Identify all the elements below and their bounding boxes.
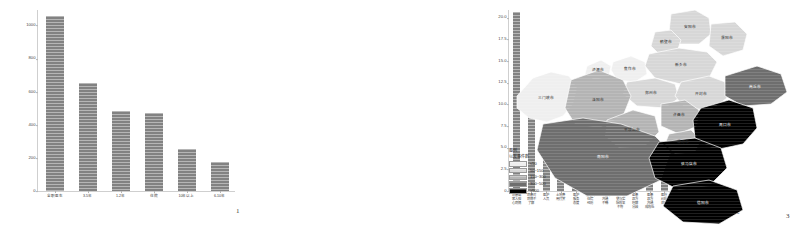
chart-1-plot-area: 02004006008001000全职医生3-5年1-2年住院10年以上6-10… bbox=[37, 10, 235, 192]
y-axis-tick-label: 1000 bbox=[26, 23, 38, 27]
figure-root: 02004006008001000全职医生3-5年1-2年住院10年以上6-10… bbox=[0, 0, 810, 233]
x-axis-tick bbox=[154, 191, 155, 193]
panel-chart-2: 02.55.07.510.012.515.017.520.0病患或 家人担 心病… bbox=[250, 0, 503, 233]
legend-swatch bbox=[509, 168, 527, 174]
panel-3-number: 3 bbox=[786, 212, 790, 220]
map-region-label: 开封市 bbox=[695, 91, 707, 96]
legend-item-label: >500 bbox=[530, 189, 539, 193]
map-region-label: 鹤壁市 bbox=[660, 39, 672, 44]
map-region-label: 商丘市 bbox=[749, 84, 761, 89]
legend-item: 150~300 bbox=[509, 175, 546, 181]
x-axis-tick-label: 1-2年 bbox=[106, 194, 136, 198]
legend-item: 300~500 bbox=[509, 181, 546, 187]
y-axis-tick-label: 600 bbox=[29, 90, 39, 94]
map-region-label: 漯河市 bbox=[677, 139, 689, 144]
y-axis-tick-label: 400 bbox=[29, 123, 39, 127]
bar bbox=[211, 162, 229, 191]
legend-swatch bbox=[509, 175, 527, 181]
map-region-label: 信阳市 bbox=[697, 200, 709, 205]
legend-item: <50 bbox=[509, 161, 546, 167]
y-axis-tick-label: 0 bbox=[33, 189, 38, 193]
legend-item: 50~150 bbox=[509, 168, 546, 174]
map-region-label: 焦作市 bbox=[624, 66, 636, 71]
x-axis-tick-label: 住院 bbox=[139, 194, 169, 198]
x-axis-tick-label: 6-10年 bbox=[205, 194, 235, 198]
legend-item-label: 50~150 bbox=[530, 169, 543, 173]
map-region-label: 南阳市 bbox=[597, 154, 609, 159]
bar bbox=[145, 113, 163, 191]
y-axis-tick-label: 800 bbox=[29, 57, 39, 61]
bar bbox=[112, 111, 130, 191]
legend-swatch bbox=[509, 188, 527, 194]
legend-title-sub: 以发事件数 bbox=[509, 154, 546, 159]
legend-swatch bbox=[509, 181, 527, 187]
map-region-label: 驻马店市 bbox=[681, 161, 697, 166]
legend-item: >500 bbox=[509, 188, 546, 194]
x-axis-tick bbox=[121, 191, 122, 193]
henan-province-map: 三门峡市济源市焦作市安阳市鹤壁市濮阳市新乡市郑州市开封市洛阳市平顶山市许昌市漯河… bbox=[503, 0, 810, 233]
x-axis-tick-label: 10年以上 bbox=[172, 194, 202, 198]
legend-item-label: 150~300 bbox=[530, 175, 546, 179]
map-region-label: 济源市 bbox=[592, 67, 604, 72]
legend-title-main: 图例 bbox=[509, 148, 546, 153]
bar bbox=[178, 149, 196, 191]
x-axis-tick bbox=[88, 191, 89, 193]
x-axis-tick bbox=[220, 191, 221, 193]
map-region-label: 安阳市 bbox=[684, 24, 696, 29]
panel-chart-1: 02004006008001000全职医生3-5年1-2年住院10年以上6-10… bbox=[0, 0, 250, 233]
legend-item-label: 300~500 bbox=[530, 182, 546, 186]
legend-item-label: <50 bbox=[530, 162, 537, 166]
legend-swatch bbox=[509, 161, 527, 167]
y-axis-tick-label: 200 bbox=[29, 156, 39, 160]
map-region-label: 新乡市 bbox=[675, 62, 687, 67]
x-axis-tick-label: 全职医生 bbox=[40, 194, 70, 198]
map-region-label: 濮阳市 bbox=[721, 35, 733, 40]
bar bbox=[79, 83, 97, 191]
map-region-label: 郑州市 bbox=[645, 90, 657, 95]
bar bbox=[46, 16, 64, 191]
panel-1-number: 1 bbox=[236, 207, 240, 215]
panel-map-3: 三门峡市济源市焦作市安阳市鹤壁市濮阳市新乡市郑州市开封市洛阳市平顶山市许昌市漯河… bbox=[503, 0, 810, 233]
x-axis-tick-label: 3-5年 bbox=[73, 194, 103, 198]
map-legend: 图例 以发事件数 <5050~150150~300300~500>500 bbox=[509, 148, 546, 194]
map-region-label: 洛阳市 bbox=[592, 97, 604, 102]
map-region-label: 许昌市 bbox=[673, 112, 685, 117]
x-axis-tick bbox=[55, 191, 56, 193]
x-axis-tick bbox=[187, 191, 188, 193]
map-region-label: 周口市 bbox=[719, 122, 731, 127]
map-region-label: 平顶山市 bbox=[624, 127, 640, 132]
map-region-label: 三门峡市 bbox=[538, 95, 554, 100]
